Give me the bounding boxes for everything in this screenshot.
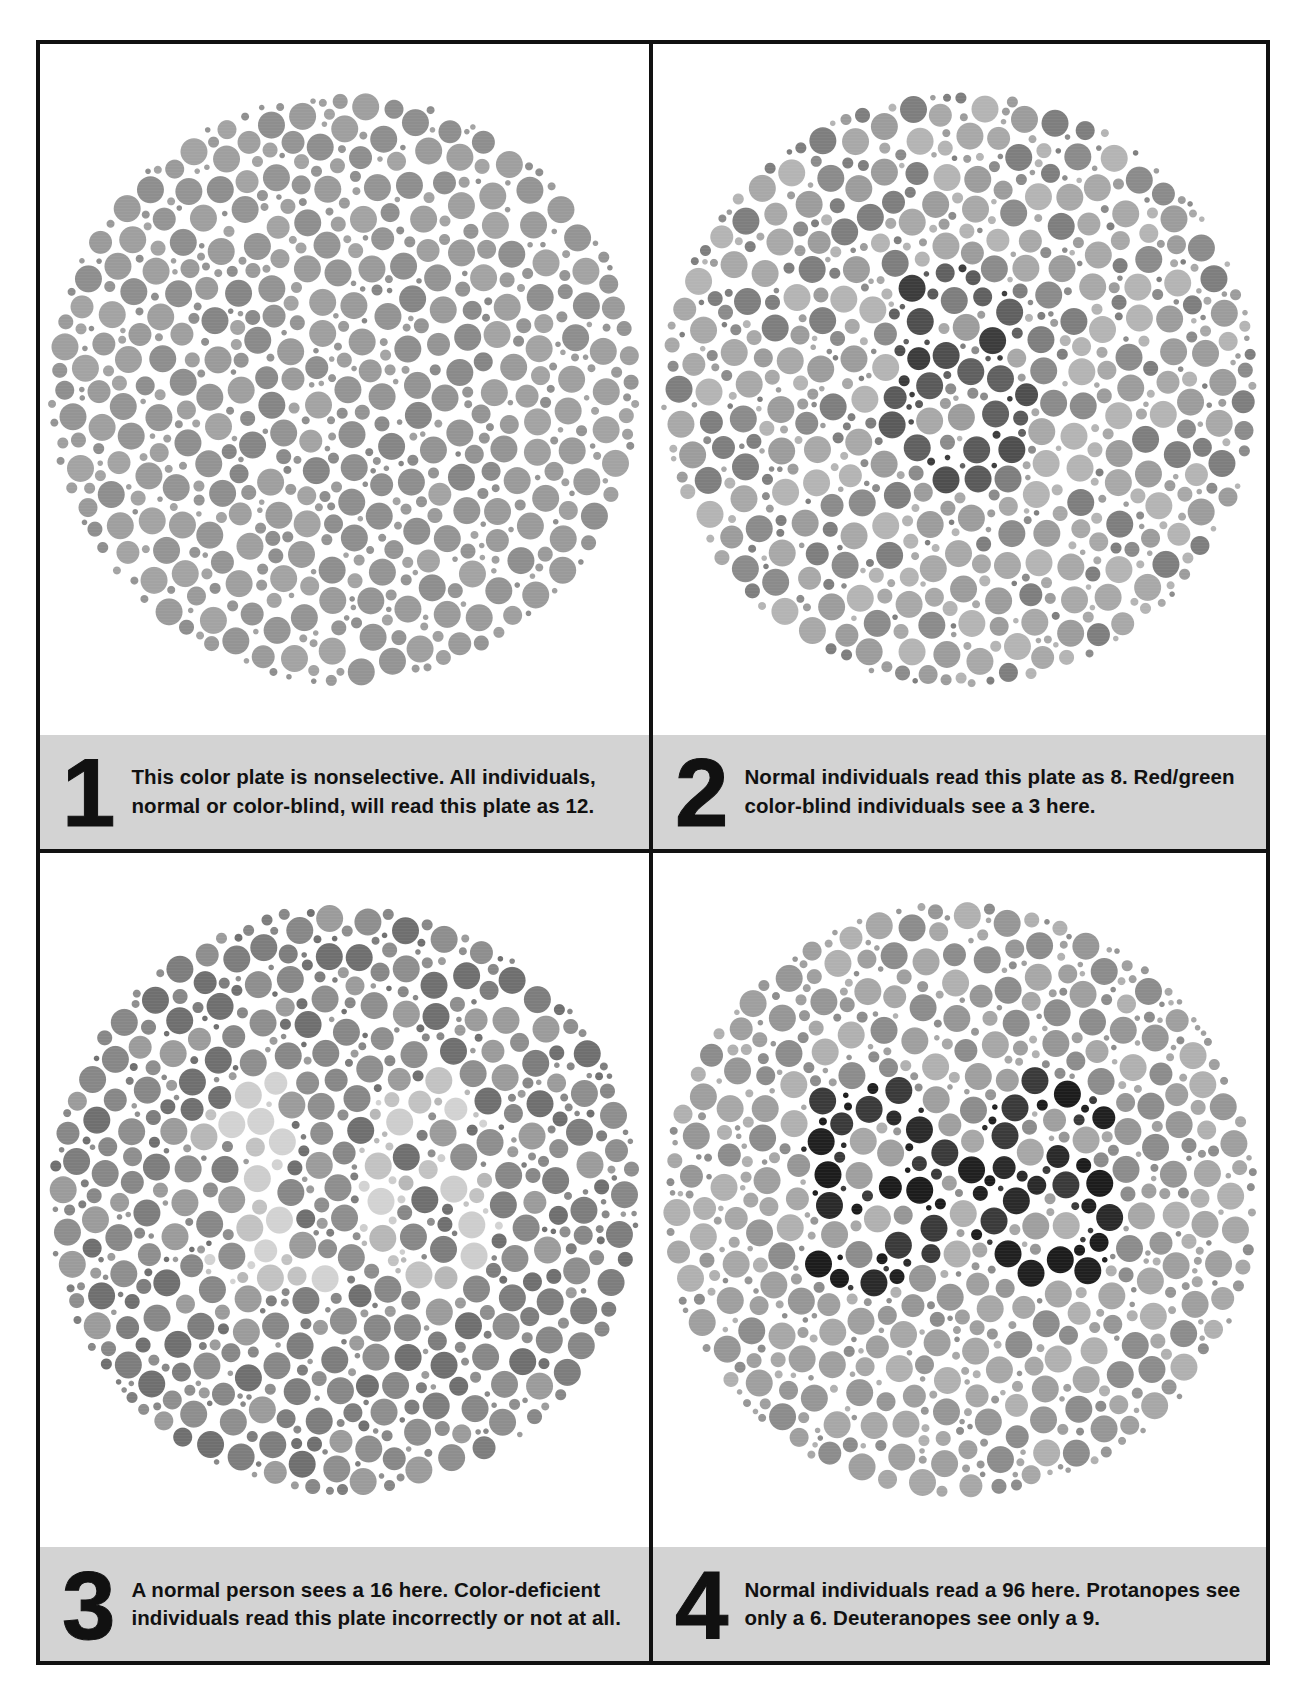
color-vision-test-figure: 1 This color plate is nonselective. All … [36, 40, 1270, 1665]
ishihara-plate-canvas-2 [659, 89, 1260, 690]
plate-cell-2: 2 Normal individuals read this plate as … [653, 44, 1266, 853]
plate-number-4: 4 [675, 1567, 724, 1646]
plate-art-area-1 [40, 44, 649, 735]
plate-caption-text-2: Normal individuals read this plate as 8.… [744, 763, 1252, 820]
plate-art-area-4 [653, 853, 1266, 1548]
plate-number-1: 1 [62, 754, 111, 833]
plate-caption-1: 1 This color plate is nonselective. All … [40, 735, 649, 849]
plate-number-3: 3 [62, 1567, 111, 1646]
ishihara-plate-canvas-1 [46, 91, 643, 688]
plate-cell-4: 4 Normal individuals read a 96 here. Pro… [653, 853, 1266, 1662]
plate-caption-text-3: A normal person sees a 16 here. Color-de… [131, 1576, 635, 1633]
plate-caption-3: 3 A normal person sees a 16 here. Color-… [40, 1547, 649, 1661]
plate-cell-3: 3 A normal person sees a 16 here. Color-… [40, 853, 653, 1662]
ishihara-plate-canvas-3 [46, 901, 643, 1498]
plate-caption-2: 2 Normal individuals read this plate as … [653, 735, 1266, 849]
plate-cell-1: 1 This color plate is nonselective. All … [40, 44, 653, 853]
plate-number-2: 2 [675, 754, 724, 833]
plate-art-area-3 [40, 853, 649, 1548]
plate-caption-4: 4 Normal individuals read a 96 here. Pro… [653, 1547, 1266, 1661]
plate-caption-text-1: This color plate is nonselective. All in… [131, 763, 635, 820]
ishihara-plate-canvas-4 [659, 899, 1260, 1500]
plate-art-area-2 [653, 44, 1266, 735]
plate-caption-text-4: Normal individuals read a 96 here. Prota… [744, 1576, 1252, 1633]
